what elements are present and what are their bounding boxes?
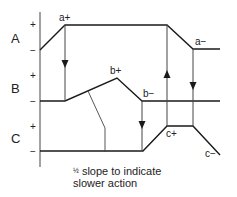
event-a-minus: a−	[195, 36, 207, 47]
event-b-minus: b−	[143, 88, 155, 99]
signal-label-c: C	[11, 131, 20, 146]
annotation-leader-line	[88, 91, 105, 152]
event-c-minus: c−	[205, 148, 216, 159]
annotation-text-1: slope to indicate	[82, 165, 162, 177]
arrow-down-icon	[139, 121, 146, 129]
signal-label-a: A	[11, 31, 20, 46]
signal-a-trace	[40, 25, 220, 50]
c-minus-marker: −	[30, 146, 36, 157]
signal-c-trace	[40, 126, 220, 155]
arrow-up-icon	[164, 70, 171, 78]
signal-label-b: B	[11, 81, 20, 96]
a-minus-marker: −	[30, 45, 36, 56]
arrow-down-icon	[62, 60, 69, 68]
slope-annotation: ½ slope to indicate slower action	[73, 165, 161, 189]
annotation-line-2: slower action	[73, 177, 161, 189]
arrow-down-icon	[190, 82, 197, 90]
c-plus-marker: +	[30, 121, 36, 132]
event-c-plus: c+	[166, 128, 177, 139]
b-plus-marker: +	[30, 70, 36, 81]
annotation-fraction: ½	[73, 167, 79, 174]
event-a-plus: a+	[59, 12, 71, 23]
b-minus-marker: −	[30, 96, 36, 107]
annotation-line-1: ½ slope to indicate	[73, 165, 161, 177]
event-b-plus: b+	[110, 65, 122, 76]
a-plus-marker: +	[30, 19, 36, 30]
